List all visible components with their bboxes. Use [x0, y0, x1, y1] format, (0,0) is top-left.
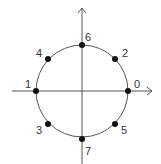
point-label-2: 2 [122, 47, 128, 59]
point-label-7: 7 [85, 145, 91, 157]
point-label-1: 1 [25, 78, 31, 90]
circle-diagram: 01234567 [0, 0, 161, 164]
point-1 [33, 88, 39, 94]
point-2 [112, 56, 118, 62]
point-4 [45, 56, 51, 62]
point-0 [125, 88, 131, 94]
point-label-4: 4 [36, 47, 42, 59]
point-3 [45, 121, 51, 127]
points-layer: 01234567 [25, 31, 140, 157]
point-label-0: 0 [134, 78, 140, 90]
point-5 [112, 121, 118, 127]
point-label-6: 6 [85, 31, 91, 43]
point-label-5: 5 [121, 124, 127, 136]
point-7 [79, 136, 85, 142]
point-label-3: 3 [36, 124, 42, 136]
